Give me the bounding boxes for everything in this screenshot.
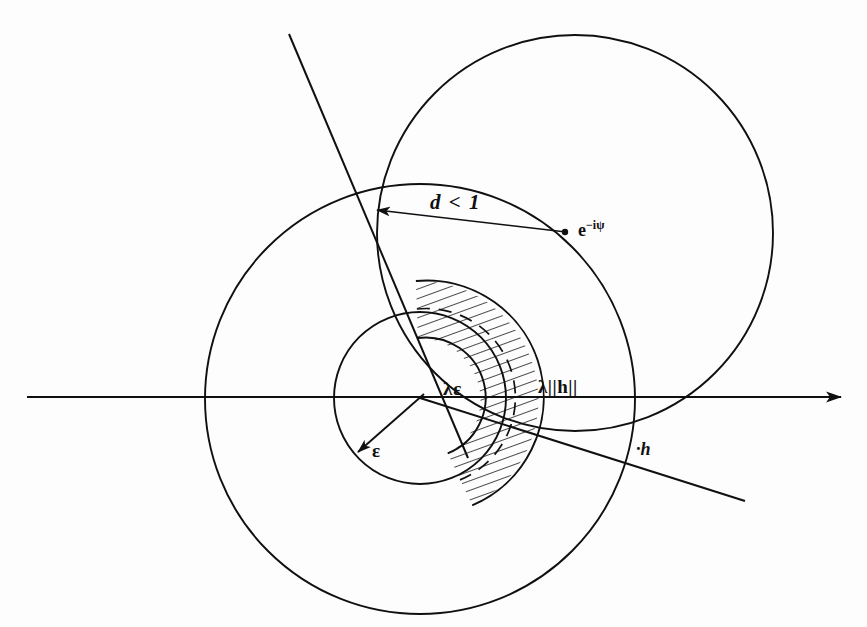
lambda-epsilon-label: λε <box>443 378 462 400</box>
h-direction-label: ·h <box>636 439 651 460</box>
d-bound-label: d < 1 <box>430 190 481 215</box>
epsilon-radius-arrow <box>358 394 424 452</box>
e-minus-i-psi-label: e−iψ <box>578 218 604 241</box>
large-right-circle <box>377 35 773 431</box>
steep-chord-line <box>289 34 468 458</box>
diagram-svg <box>0 0 867 627</box>
epsilon-label: ε <box>372 440 380 462</box>
e-minus-i-psi-point <box>562 229 568 235</box>
diagram-canvas: d < 1 e−iψ λε λ||h|| ε ·h <box>0 0 867 627</box>
e-exponent: −iψ <box>586 218 604 232</box>
lambda-norm-h-label: λ||h|| <box>538 376 578 398</box>
e-base: e <box>578 220 586 240</box>
